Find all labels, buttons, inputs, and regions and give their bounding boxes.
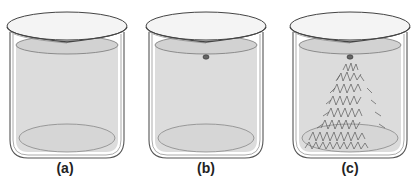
panel-label-c: (c) <box>330 160 370 176</box>
seed-crystal-icon <box>203 55 209 59</box>
beaker-c <box>290 12 410 158</box>
beaker-a <box>7 12 127 158</box>
seed-crystal-icon <box>347 55 353 59</box>
panel-label-b: (b) <box>186 160 226 176</box>
beaker-b <box>146 12 266 158</box>
panel-label-a: (a) <box>45 160 85 176</box>
